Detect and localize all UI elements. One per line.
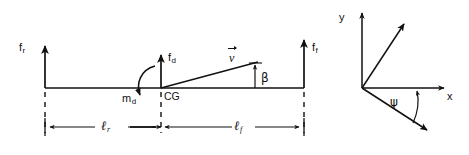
inertial-x0-axis-label [430,128,431,141]
rear-force-label: fr [19,42,25,55]
rear-length-label: ℓr [101,119,110,134]
body-x-axis-label: x [447,91,453,102]
velocity-vector-label: v [229,52,234,64]
inertial-y0-axis [362,24,404,88]
body-y-axis-label: y [339,12,345,23]
yaw-angle-label: ψ [390,96,398,108]
velocity-vector [161,62,258,88]
disturbance-moment-arc [139,66,155,95]
sideslip-angle-label: β [261,72,269,84]
center-of-gravity-label: CG [164,91,180,102]
inertial-y0-axis-label [405,12,406,25]
yaw-angle-arc [413,91,418,123]
front-length-label: ℓf [234,119,242,134]
disturbance-moment-label: md [122,93,136,106]
technical-figure: fr ff fd md CG v β ℓr ℓf y x ψ [0,0,469,155]
front-force-label: ff [312,42,318,55]
disturbance-force-label: fd [168,52,176,65]
